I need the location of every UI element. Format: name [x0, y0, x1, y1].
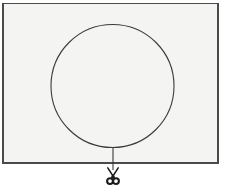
figure-root: Balloon held by a string being cut by sc… [0, 0, 225, 194]
scissors-handle-left [107, 178, 113, 184]
scissors-pivot [112, 176, 114, 178]
diagram-canvas: Balloon held by a string being cut by sc… [0, 0, 225, 194]
scissors-handle-right [113, 178, 119, 184]
scissors-icon [107, 168, 119, 184]
balloon-circle [51, 25, 174, 148]
